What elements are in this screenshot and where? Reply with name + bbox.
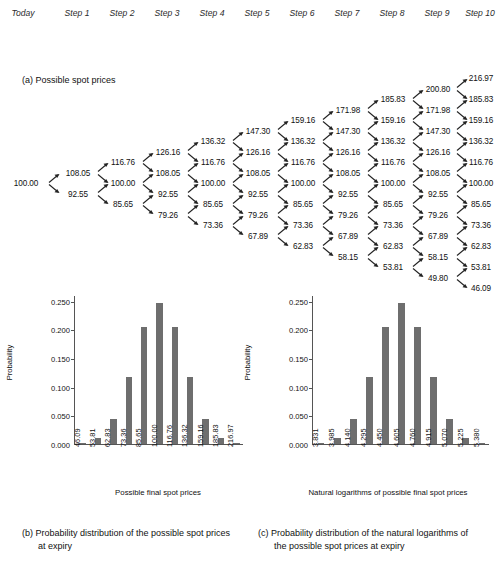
tree-node: 92.55 [428, 189, 448, 198]
tree-node: 79.26 [158, 210, 178, 219]
step-header-row: TodayStep 1Step 2Step 3Step 4Step 5Step … [0, 8, 503, 24]
tree-arrow-down [413, 163, 424, 172]
x-tick-label: 5.380 [471, 429, 480, 448]
tree-arrow-up [188, 184, 199, 193]
x-tick-label: 4.295 [359, 429, 368, 448]
tree-node: 185.83 [381, 95, 405, 104]
tree-node: 116.76 [201, 158, 225, 167]
y-tick-mark [309, 359, 313, 360]
tree-node: 100.00 [111, 179, 135, 188]
tree-arrow-down [233, 205, 244, 214]
tree-arrow-down [457, 90, 468, 99]
tree-arrow-up [323, 195, 334, 204]
tree-arrow-up [278, 142, 289, 151]
tree-arrow-up [457, 79, 468, 88]
tree-node: 108.05 [156, 168, 180, 177]
tree-node: 62.83 [383, 242, 403, 251]
x-tick-label: 185.83 [210, 424, 219, 447]
tree-arrow-down [233, 226, 244, 235]
tree-node: 116.76 [469, 158, 493, 167]
tree-node: 136.32 [381, 137, 405, 146]
tree-arrow-down [323, 163, 334, 172]
tree-arrow-up [413, 258, 424, 267]
tree-arrow-up [368, 142, 379, 151]
tree-node: 49.80 [428, 273, 448, 282]
tree-node: 171.98 [426, 105, 450, 114]
tree-node: 58.15 [428, 252, 448, 261]
chart-probability-spot-prices: Probability 0.0000.0500.1000.1500.2000.2… [18, 288, 250, 488]
x-tick-label: 4.760 [407, 429, 416, 448]
tree-arrow-up [323, 153, 334, 162]
tree-arrow-down [278, 153, 289, 162]
subcaption-c-text: (c) Probability distribution of the natu… [258, 527, 483, 553]
tree-arrow-down [368, 237, 379, 246]
tree-arrow-down [413, 100, 424, 109]
tree-arrow-up [323, 237, 334, 246]
y-tick-label: 0.000 [51, 441, 75, 450]
tree-arrow-down [98, 174, 109, 183]
tree-arrow-down [188, 174, 199, 183]
tree-arrow-up [457, 247, 468, 256]
y-tick-mark [309, 302, 313, 303]
tree-node: 185.83 [469, 95, 493, 104]
tree-arrow-down [143, 184, 154, 193]
tree-arrow-up [278, 226, 289, 235]
tree-arrow-down [457, 132, 468, 141]
x-tick-label: 73.36 [118, 429, 127, 448]
y-tick-mark [71, 388, 75, 389]
step-label-5: Step 5 [245, 8, 270, 18]
tree-node: 73.36 [383, 221, 403, 230]
tree-arrow-up [323, 216, 334, 225]
x-tick-label: 159.16 [195, 424, 204, 447]
tree-arrow-down [457, 279, 468, 288]
step-label-4: Step 4 [200, 8, 225, 18]
tree-arrow-down [278, 237, 289, 246]
tree-node: 159.16 [291, 116, 315, 125]
tree-arrow-up [413, 153, 424, 162]
x-tick-label: 116.76 [164, 425, 173, 447]
tree-node: 147.30 [246, 126, 270, 135]
tree-node: 126.16 [426, 147, 450, 156]
x-tick-label: 4.450 [375, 429, 384, 448]
tree-arrow-up [368, 205, 379, 214]
tree-node: 116.76 [291, 158, 315, 167]
tree-node: 108.05 [426, 168, 450, 177]
binomial-tree: 100.00108.0592.55116.76100.0085.65126.16… [0, 88, 503, 278]
tree-node: 62.83 [293, 242, 313, 251]
tree-node: 73.36 [471, 221, 491, 230]
tree-node: 108.05 [246, 168, 270, 177]
tree-arrow-up [49, 174, 60, 183]
tree-node: 92.55 [338, 189, 358, 198]
tree-arrow-down [368, 132, 379, 141]
tree-arrow-down [368, 195, 379, 204]
tree-arrow-up [368, 163, 379, 172]
y-tick-mark [309, 388, 313, 389]
tree-arrow-down [233, 184, 244, 193]
tree-arrow-up [143, 153, 154, 162]
tree-node: 67.89 [248, 231, 268, 240]
tree-node: 85.65 [471, 200, 491, 209]
tree-arrow-up [98, 163, 109, 172]
tree-arrow-up [368, 184, 379, 193]
x-tick-label: 4.140 [343, 429, 352, 448]
x-tick-label: 100.00 [149, 424, 158, 447]
tree-arrow-up [368, 100, 379, 109]
tree-arrow-up [368, 226, 379, 235]
tree-node: 136.32 [201, 137, 225, 146]
tree-arrow-down [188, 153, 199, 162]
y-tick-label: 0.000 [289, 441, 313, 450]
histogram-bar [398, 303, 405, 444]
tree-node: 100.00 [201, 179, 225, 188]
tree-arrow-up [368, 247, 379, 256]
step-label-2: Step 2 [110, 8, 135, 18]
tree-arrow-down [413, 142, 424, 151]
tree-arrow-up [233, 195, 244, 204]
tree-node: 67.89 [428, 231, 448, 240]
tree-arrow-down [188, 216, 199, 225]
tree-arrow-up [278, 121, 289, 130]
y-tick-mark [71, 302, 75, 303]
tree-node: 100.00 [381, 179, 405, 188]
tree-arrow-up [278, 163, 289, 172]
tree-arrow-down [413, 247, 424, 256]
tree-arrow-down [278, 132, 289, 141]
